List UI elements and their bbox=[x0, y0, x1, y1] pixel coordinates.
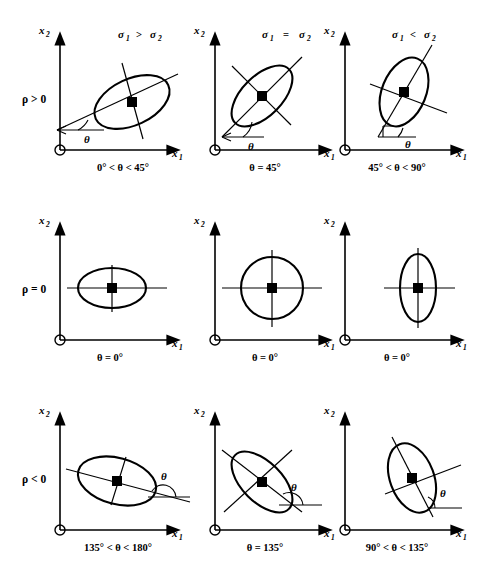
x-axis-label: x 1 bbox=[171, 337, 183, 352]
panel-r3c2: x 2 x 1 θ θ = 135° bbox=[193, 404, 335, 553]
right-angle-marker bbox=[383, 126, 394, 137]
x-axis-label-sub: 1 bbox=[179, 533, 183, 542]
x-axis-label-sub: 1 bbox=[331, 343, 335, 352]
y-axis-label-text: x bbox=[323, 214, 330, 226]
theta-label: θ bbox=[291, 481, 297, 493]
y-axis-label: x 2 bbox=[38, 404, 50, 419]
angle-caption: 0° < θ < 45° bbox=[97, 162, 149, 173]
col2-relation: = bbox=[283, 29, 289, 40]
y-axis-label-sub: 2 bbox=[200, 220, 205, 229]
y-axis-label-sub: 2 bbox=[45, 410, 50, 419]
x-axis-label-text: x bbox=[171, 527, 178, 539]
y-axis-label-text: x bbox=[193, 214, 200, 226]
theta-label: θ bbox=[440, 487, 446, 499]
x-axis-label: x 1 bbox=[171, 527, 183, 542]
y-axis-label-sub: 2 bbox=[330, 410, 335, 419]
mean-marker bbox=[407, 473, 417, 483]
y-axis-label-text: x bbox=[38, 214, 45, 226]
x-axis-label-text: x bbox=[455, 527, 462, 539]
y-axis-label-sub: 2 bbox=[45, 220, 50, 229]
y-axis-label-text: x bbox=[193, 404, 200, 416]
col3-relation: < bbox=[410, 29, 416, 40]
col3-sigma1: σ bbox=[392, 28, 399, 40]
mean-marker bbox=[107, 283, 117, 293]
theta-label: θ bbox=[405, 138, 411, 150]
x-axis-label-text: x bbox=[171, 147, 178, 159]
mean-marker bbox=[413, 283, 423, 293]
y-axis-label-sub: 2 bbox=[330, 220, 335, 229]
y-axis-label-sub: 2 bbox=[330, 30, 335, 39]
y-axis-label-sub: 2 bbox=[200, 410, 205, 419]
x-axis-label-text: x bbox=[323, 337, 330, 349]
angle-caption: 135° < θ < 180° bbox=[84, 542, 152, 553]
x-axis-label: x 1 bbox=[455, 527, 467, 542]
x-axis-label-text: x bbox=[323, 527, 330, 539]
row-label-rho-positive: ρ > 0 bbox=[22, 93, 46, 106]
column-title-sigma-less: σ 1 < σ 2 bbox=[392, 28, 436, 43]
mean-marker bbox=[127, 97, 137, 107]
y-axis-label-text: x bbox=[193, 24, 200, 36]
x-axis-label-text: x bbox=[455, 337, 462, 349]
x-axis-label-sub: 1 bbox=[463, 533, 467, 542]
x-axis-label: x 1 bbox=[455, 337, 467, 352]
y-axis-label: x 2 bbox=[38, 214, 50, 229]
col1-sigma1-sub: 1 bbox=[126, 34, 130, 43]
row-label-rho-zero: ρ = 0 bbox=[22, 283, 46, 296]
col2-sigma2-sub: 2 bbox=[306, 34, 311, 43]
panel-r2c2: x 2 x 1 θ = 0° bbox=[193, 214, 335, 363]
panel-r2c3: x 2 x 1 θ = 0° bbox=[323, 214, 467, 363]
mean-marker bbox=[257, 91, 267, 101]
col2-sigma1: σ bbox=[262, 28, 269, 40]
x-axis-label-text: x bbox=[171, 337, 178, 349]
y-axis-label: x 2 bbox=[323, 404, 335, 419]
col1-relation: > bbox=[136, 29, 142, 40]
col2-sigma1-sub: 1 bbox=[270, 34, 274, 43]
theta-label: θ bbox=[161, 470, 167, 482]
col3-sigma1-sub: 1 bbox=[400, 34, 404, 43]
mean-marker bbox=[257, 477, 267, 487]
panel-r2c1: x 2 x 1 θ = 0° bbox=[38, 214, 183, 363]
angle-caption: 45° < θ < 90° bbox=[368, 162, 425, 173]
angle-caption: θ = 0° bbox=[384, 352, 410, 363]
mean-marker bbox=[399, 87, 409, 97]
column-title-sigma-equal: σ 1 = σ 2 bbox=[262, 28, 311, 43]
y-axis-label-sub: 2 bbox=[45, 30, 50, 39]
y-axis-label: x 2 bbox=[38, 24, 50, 39]
col1-sigma2-sub: 2 bbox=[157, 34, 162, 43]
y-axis-label-text: x bbox=[38, 24, 45, 36]
mean-marker bbox=[267, 283, 277, 293]
col2-sigma2: σ bbox=[299, 28, 306, 40]
panel-r3c3: x 2 x 1 θ 90° < θ < 135° bbox=[323, 404, 467, 553]
y-axis-label: x 2 bbox=[193, 214, 205, 229]
panel-r3c1: x 2 x 1 θ 135° < θ < 180° bbox=[38, 404, 190, 553]
y-axis-label-text: x bbox=[38, 404, 45, 416]
angle-caption: 90° < θ < 135° bbox=[366, 542, 429, 553]
column-title-sigma-greater: σ 1 > σ 2 bbox=[118, 28, 162, 43]
col3-sigma2: σ bbox=[424, 28, 431, 40]
bivariate-normal-ellipse-figure: ρ > 0 ρ = 0 ρ < 0 σ 1 > σ 2 σ 1 = σ 2 σ … bbox=[0, 0, 486, 587]
angle-caption: θ = 45° bbox=[249, 162, 280, 173]
angle-caption: θ = 0° bbox=[97, 352, 123, 363]
x-axis-label-sub: 1 bbox=[331, 533, 335, 542]
y-axis-label-sub: 2 bbox=[200, 30, 205, 39]
panel-r1c3: x 2 x 1 θ 45° < θ < 90° bbox=[323, 24, 467, 173]
angle-caption: θ = 0° bbox=[252, 352, 278, 363]
x-axis-label-sub: 1 bbox=[463, 343, 467, 352]
minor-axis-line bbox=[385, 465, 461, 494]
x-axis-label: x 1 bbox=[323, 337, 335, 352]
y-axis-label: x 2 bbox=[193, 404, 205, 419]
x-axis-label: x 1 bbox=[323, 527, 335, 542]
panel-r1c1: x 2 x 1 θ 0° < θ < 45° bbox=[38, 24, 183, 173]
y-axis-label-text: x bbox=[323, 404, 330, 416]
figure-canvas: ρ > 0 ρ = 0 ρ < 0 σ 1 > σ 2 σ 1 = σ 2 σ … bbox=[0, 0, 486, 587]
x-axis-label: x 1 bbox=[171, 147, 183, 162]
y-axis-label: x 2 bbox=[323, 24, 335, 39]
x-axis-label: x 1 bbox=[323, 147, 335, 162]
y-axis-label: x 2 bbox=[193, 24, 205, 39]
col1-sigma2: σ bbox=[150, 28, 157, 40]
angle-caption: θ = 135° bbox=[247, 542, 284, 553]
panel-r1c2: x 2 x 1 θ θ = 45° bbox=[193, 24, 335, 173]
col3-sigma2-sub: 2 bbox=[431, 34, 436, 43]
row-label-rho-negative: ρ < 0 bbox=[22, 473, 46, 486]
x-axis-label-sub: 1 bbox=[463, 153, 467, 162]
